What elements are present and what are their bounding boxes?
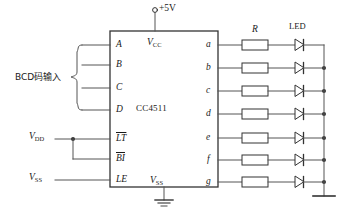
vdd-label-sub: DD <box>35 135 44 142</box>
resistor-c <box>242 86 268 96</box>
vss-pin-label-text: V <box>150 175 156 185</box>
vcc-pin-label-sub: CC <box>153 41 162 48</box>
vss-left-label: VSS <box>29 173 42 183</box>
vdd-label: VDD <box>29 132 44 142</box>
pin-label-seg-d: d <box>206 109 211 119</box>
vcc-supply-label: +5V <box>159 4 176 14</box>
schematic-svg <box>0 0 338 213</box>
vcc-terminal-circle <box>153 8 158 13</box>
pin-label-seg-c: c <box>206 86 210 96</box>
led-f-triangle <box>295 155 304 166</box>
led-c-triangle <box>295 86 304 97</box>
pin-label-B: B <box>116 60 122 70</box>
pin-label-seg-e: e <box>206 133 210 143</box>
vss-pin-label-sub: SS <box>156 179 163 186</box>
led-a-triangle <box>295 40 304 51</box>
bcd-input-brace <box>71 45 82 110</box>
resistor-f <box>242 155 268 165</box>
bcd-input-label: BCD码输入 <box>15 73 61 82</box>
resistor-b <box>242 63 268 73</box>
pin-label-A: A <box>116 40 122 50</box>
pin-label-seg-g: g <box>206 177 211 187</box>
pin-label-D: D <box>116 105 123 115</box>
led-e-triangle <box>295 133 304 144</box>
led-g-triangle <box>295 177 304 188</box>
pin-label-LT: LT <box>116 134 126 144</box>
vss-left-label-text: V <box>29 172 35 182</box>
pin-label-C: C <box>116 83 122 93</box>
circuit-diagram-canvas: +5V VCC VSS CC4511 A B C D LT BI LE a b … <box>0 0 338 213</box>
vss-pin-label: VSS <box>150 176 163 186</box>
vcc-pin-label-text: V <box>147 37 153 47</box>
vdd-label-text: V <box>29 131 35 141</box>
vss-left-label-sub: SS <box>35 176 42 183</box>
pin-label-BI: BI <box>116 154 125 164</box>
resistor-label-R: R <box>252 25 258 35</box>
resistor-a <box>242 40 268 50</box>
vcc-pin-label: VCC <box>147 38 161 48</box>
pin-label-seg-a: a <box>206 40 211 50</box>
resistor-d <box>242 109 268 119</box>
resistor-g <box>242 177 268 187</box>
led-label: LED <box>289 22 306 31</box>
pin-label-seg-f: f <box>207 155 210 165</box>
resistor-e <box>242 133 268 143</box>
led-d-triangle <box>295 109 304 120</box>
chip-name-label: CC4511 <box>136 104 167 113</box>
pin-label-LE: LE <box>116 175 127 185</box>
led-b-triangle <box>295 63 304 74</box>
pin-label-seg-b: b <box>206 63 211 73</box>
